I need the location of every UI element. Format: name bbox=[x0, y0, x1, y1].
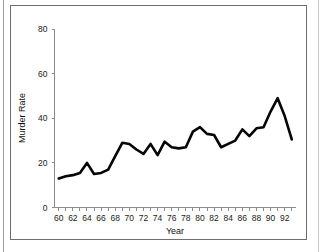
screenshot-root: 020406080 606264666870727476788082848688… bbox=[0, 0, 321, 252]
x-tick-label-88: 88 bbox=[252, 213, 262, 223]
x-tick-label-80: 80 bbox=[195, 213, 205, 223]
x-tick-label-90: 90 bbox=[266, 213, 276, 223]
figure-frame: 020406080 606264666870727476788082848688… bbox=[10, 5, 307, 240]
scan-edge-right bbox=[318, 0, 319, 252]
axes-group bbox=[55, 29, 297, 208]
chart-svg: 020406080 606264666870727476788082848688… bbox=[11, 6, 308, 241]
scan-edge-left bbox=[3, 0, 4, 252]
y-axis-title: Murder Rate bbox=[17, 93, 27, 143]
x-axis-title: Year bbox=[166, 226, 184, 236]
y-axis-tick-labels: 020406080 bbox=[38, 24, 48, 213]
line-chart: 020406080 606264666870727476788082848688… bbox=[11, 6, 308, 241]
y-tick-label-80: 80 bbox=[38, 24, 48, 34]
y-tick-label-40: 40 bbox=[38, 113, 48, 123]
x-tick-label-74: 74 bbox=[153, 213, 163, 223]
x-tick-label-86: 86 bbox=[238, 213, 248, 223]
x-tick-label-76: 76 bbox=[167, 213, 177, 223]
x-tick-label-78: 78 bbox=[181, 213, 191, 223]
x-axis-tick-labels: 6062646668707274767880828486889092 bbox=[54, 213, 290, 223]
x-tick-label-92: 92 bbox=[280, 213, 290, 223]
x-tick-label-82: 82 bbox=[209, 213, 219, 223]
x-tick-label-70: 70 bbox=[125, 213, 135, 223]
y-tick-label-20: 20 bbox=[38, 158, 48, 168]
murder-rate-series bbox=[59, 98, 292, 178]
y-tick-label-0: 0 bbox=[43, 203, 48, 213]
x-tick-label-60: 60 bbox=[54, 213, 64, 223]
x-tick-label-72: 72 bbox=[139, 213, 149, 223]
y-tick-label-60: 60 bbox=[38, 69, 48, 79]
x-tick-label-84: 84 bbox=[223, 213, 233, 223]
x-tick-label-68: 68 bbox=[110, 213, 120, 223]
x-tick-label-62: 62 bbox=[68, 213, 78, 223]
x-tick-label-64: 64 bbox=[82, 213, 92, 223]
x-tick-label-66: 66 bbox=[96, 213, 106, 223]
